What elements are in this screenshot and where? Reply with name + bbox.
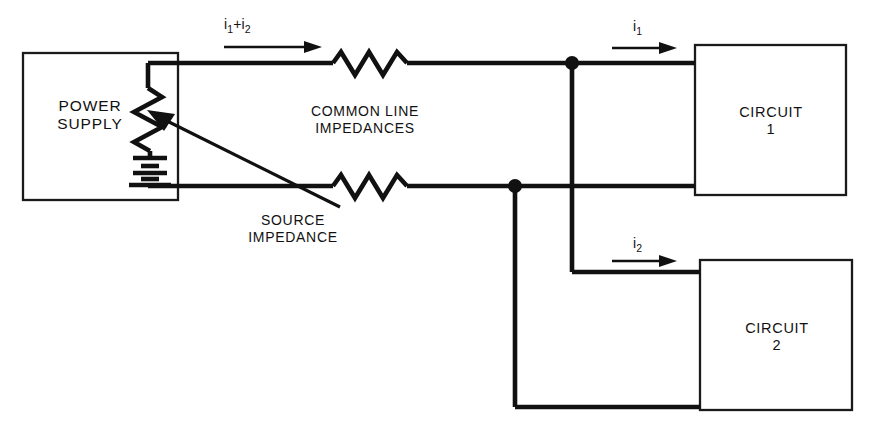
current-total-label: i1+i2 [224,16,251,33]
current-total-sub-1: 1 [227,23,233,35]
circuit-2-label-line-2: 2 [712,337,842,354]
common-line-impedances-line-1: COMMON LINE [280,103,450,120]
circuit-1-label-line-1: CIRCUIT [706,104,836,121]
circuit-1-label-line-2: 1 [706,121,836,138]
current-total-operator: + [233,16,241,32]
circuit-2-label-line-1: CIRCUIT [712,320,842,337]
source-impedance-line-2: IMPEDANCE [213,229,373,246]
common-line-impedances-line-2: IMPEDANCES [280,120,450,137]
source-impedance-line-1: SOURCE [213,212,373,229]
current-i1-arrowhead [659,42,677,54]
common-line-resistor-upper [333,52,407,75]
circuit-2-label: CIRCUIT 2 [712,320,842,354]
power-supply-label-line-1: POWER [40,97,140,115]
junction-dot-upper [565,56,579,70]
circuit-1-label: CIRCUIT 1 [706,104,836,138]
current-i2-label: i2 [633,235,642,252]
current-total-arrowhead [304,41,322,53]
source-impedance-label: SOURCE IMPEDANCE [213,212,373,245]
power-supply-label: POWER SUPPLY [40,97,140,134]
power-supply-label-line-2: SUPPLY [40,115,140,133]
current-total-sub-2: 2 [245,23,251,35]
common-line-impedances-label: COMMON LINE IMPEDANCES [280,103,450,136]
common-line-resistor-lower [333,175,407,198]
diagram-canvas [0,0,873,433]
current-i1-sub: 1 [636,25,642,37]
junction-dot-lower [508,179,522,193]
current-i2-arrowhead [659,255,677,267]
current-i1-label: i1 [633,18,642,35]
current-i2-sub: 2 [636,242,642,254]
circuit-diagram: POWER SUPPLY COMMON LINE IMPEDANCES SOUR… [0,0,873,433]
